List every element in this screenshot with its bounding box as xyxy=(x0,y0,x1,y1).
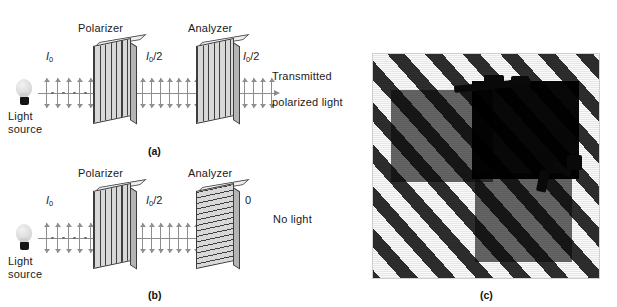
light-bulb-icon-a xyxy=(14,79,34,107)
light-bulb-icon-b xyxy=(14,224,34,252)
lens-bottom xyxy=(475,173,572,263)
lens-tint xyxy=(472,81,578,180)
plate-face xyxy=(196,38,234,124)
polarized-light-a-out xyxy=(242,78,274,108)
bulb-base xyxy=(20,97,29,105)
plate-right-edge xyxy=(233,187,240,270)
after-analyzer-intensity-a: I0/2 xyxy=(243,50,259,64)
polarized-light-a-mid xyxy=(140,78,202,108)
plate-right-edge xyxy=(130,42,137,125)
polarization-figure: Polarizer Analyzer I0 I0/2 I0/2 Light so… xyxy=(0,0,617,307)
incident-intensity-a: I0 xyxy=(46,50,53,64)
no-light-label-b: No light xyxy=(273,213,312,225)
plate-grating xyxy=(197,39,233,123)
plate-right-edge xyxy=(233,42,240,125)
source-label-a-line1: Light xyxy=(8,110,33,122)
plate-face xyxy=(196,183,234,269)
panel-tag-c: (c) xyxy=(480,289,493,301)
sunglasses-photo xyxy=(372,53,600,279)
bulb-base xyxy=(20,242,29,250)
intensity-subscript: 0 xyxy=(49,199,53,208)
polarizer-label-b: Polarizer xyxy=(78,167,123,179)
panel-tag-b: (b) xyxy=(148,289,161,301)
source-label-a-line2: source xyxy=(8,123,42,135)
after-polarizer-intensity-b: I0/2 xyxy=(146,194,162,208)
unpolarized-light-a xyxy=(44,78,100,108)
analyzer-plate-a xyxy=(196,42,234,120)
panel-tag-a: (a) xyxy=(148,145,161,157)
intensity-subscript: 0 xyxy=(49,55,53,64)
analyzer-label-b: Analyzer xyxy=(188,167,232,179)
polarizer-plate-b xyxy=(93,187,131,265)
output-value-b: 0 xyxy=(245,194,251,206)
frame-clip-right xyxy=(511,76,529,86)
plate-right-edge xyxy=(130,187,137,270)
incident-intensity-b: I0 xyxy=(46,194,53,208)
analyzer-label-a: Analyzer xyxy=(188,22,232,34)
plate-grating xyxy=(94,39,130,123)
after-polarizer-intensity-a: I0/2 xyxy=(146,50,162,64)
polarized-light-b-mid xyxy=(140,223,202,253)
intensity-divisor: /2 xyxy=(250,50,259,62)
plate-grating xyxy=(94,184,130,268)
polarizer-plate-a xyxy=(93,42,131,120)
plate-face xyxy=(93,183,131,269)
plate-face xyxy=(93,38,131,124)
plate-grating xyxy=(197,184,233,268)
unpolarized-light-b xyxy=(44,223,100,253)
source-label-b-line2: source xyxy=(8,268,42,280)
frame-clip-left xyxy=(484,75,504,86)
lens-tint xyxy=(475,173,572,263)
frame-hinge xyxy=(567,155,582,171)
source-label-b-line1: Light xyxy=(8,255,33,267)
analyzer-plate-b xyxy=(196,187,234,265)
intensity-divisor: /2 xyxy=(153,194,162,206)
intensity-divisor: /2 xyxy=(153,50,162,62)
polarizer-label-a: Polarizer xyxy=(78,22,123,34)
transmitted-label-a-line2: polarized light xyxy=(272,96,343,108)
transmitted-label-a-line1: Transmitted xyxy=(272,70,332,82)
lens-overlap-dark xyxy=(472,81,578,180)
